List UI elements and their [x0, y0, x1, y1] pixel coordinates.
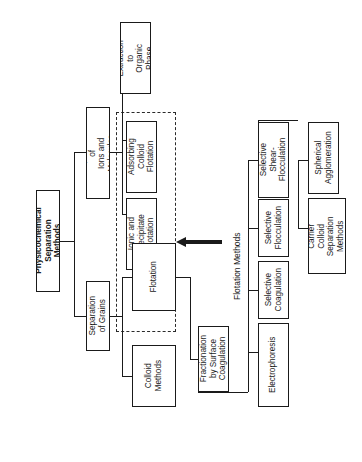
- connector-to-ions-molecules: [74, 152, 86, 153]
- node-adsorbing-colloid-flotation[interactable]: Adsorbing Colloid Flotation: [126, 121, 157, 193]
- connector-to-grains: [74, 316, 86, 317]
- node-physicochemical-separation-methods[interactable]: Physicochemical Separation Methods: [36, 190, 60, 292]
- node-label-flotation: Flotation: [149, 256, 159, 298]
- connector-colloid-stem-b: [198, 392, 248, 393]
- connector-colloid-children-spine: [248, 160, 249, 392]
- connector-flotation-child-spine: [190, 277, 191, 359]
- node-label-extraction-to-organic-phase: Extraction to Organic Phase: [120, 40, 151, 76]
- node-label-electrophoresis: Electrophoresis: [269, 337, 279, 393]
- node-label-selective-flocculation: Selective Flocculation: [264, 206, 283, 250]
- node-electrophoresis[interactable]: Electrophoresis: [258, 323, 289, 407]
- connector-root-stem: [60, 241, 74, 242]
- node-extraction-to-organic-phase[interactable]: Extraction to Organic Phase: [120, 22, 151, 94]
- node-label-fractionation-by-surface-coagulation: Fractionation by Surface Coagulation: [199, 335, 228, 382]
- connector-grains-stem: [110, 316, 122, 317]
- node-flotation[interactable]: Flotation: [132, 243, 176, 311]
- node-separation-of-ions-and-molecules[interactable]: Separation of Ions and Molecules: [86, 107, 110, 199]
- node-selective-coagulation[interactable]: Selective Coagulation: [258, 261, 289, 319]
- node-label-selective-shear-flocculation: Selective Shear-Flocculation: [259, 138, 288, 182]
- node-label-adsorbing-colloid-flotation: Adsorbing Colloid Flotation: [127, 139, 156, 176]
- node-spherical-agglomeration[interactable]: Spherical Agglomeration: [308, 122, 339, 194]
- node-fractionation-by-surface-coagulation[interactable]: Fractionation by Surface Coagulation: [198, 326, 229, 392]
- flotation-methods-arrow-head: [176, 237, 186, 247]
- node-colloid-methods[interactable]: Colloid Methods: [132, 345, 176, 407]
- node-label-carrier-colloid-separation-methods: Carrier Colloid Separation Methods: [308, 216, 346, 256]
- flotation-methods-callout-label: Flotation Methods: [232, 232, 242, 300]
- connector-to-fractionation: [190, 359, 198, 360]
- node-carrier-colloid-separation-methods[interactable]: Carrier Colloid Separation Methods: [308, 198, 346, 274]
- flotation-methods-arrow-shaft: [186, 240, 222, 244]
- connector-to-spherical-agglomeration: [298, 160, 308, 161]
- diagram-canvas: Flotation Methods Physicochemical Separa…: [0, 0, 362, 462]
- connector-grains-children-spine: [122, 277, 123, 376]
- connector-to-shear-flocculation: [248, 160, 258, 161]
- node-label-selective-coagulation: Selective Coagulation: [264, 268, 283, 312]
- node-label-spherical-agglomeration: Spherical Agglomeration: [314, 132, 333, 185]
- connector-ions-stem: [110, 152, 122, 153]
- connector-to-electrophoresis: [248, 352, 258, 353]
- connector-right-column-bracket-h: [258, 120, 298, 121]
- node-label-colloid-methods: Colloid Methods: [144, 355, 163, 397]
- connector-far-right-spine: [298, 160, 299, 228]
- node-label-root: Physicochemical Separation Methods: [36, 208, 60, 274]
- connector-to-selective-flocculation: [248, 228, 258, 229]
- node-selective-shear-flocculation[interactable]: Selective Shear-Flocculation: [258, 122, 289, 198]
- node-separation-of-grains[interactable]: Separation of Grains: [86, 281, 110, 351]
- node-label-separation-of-grains: Separation of Grains: [88, 296, 107, 336]
- connector-to-selective-coagulation: [248, 290, 258, 291]
- connector-to-flotation: [122, 277, 132, 278]
- connector-to-colloid-methods: [122, 376, 132, 377]
- connector-to-carrier-colloid: [298, 228, 308, 229]
- node-selective-flocculation[interactable]: Selective Flocculation: [258, 199, 289, 257]
- connector-flotation-stem: [176, 277, 190, 278]
- connector-level2-spine: [74, 152, 75, 316]
- node-label-separation-of-ions-and-molecules: Separation of Ions and Molecules: [86, 133, 110, 173]
